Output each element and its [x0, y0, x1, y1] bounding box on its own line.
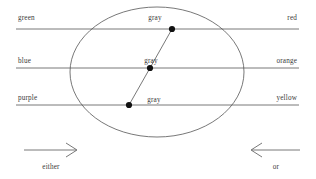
- row-label-left-2: blue: [18, 57, 78, 65]
- data-point-middle: [147, 65, 153, 71]
- either-arrow: [24, 143, 77, 157]
- grouping-ellipse: [70, 7, 244, 137]
- either-arrow-label: either: [25, 163, 77, 171]
- row-label-left-1: green: [18, 14, 78, 22]
- row-label-mid-2: gray: [126, 57, 176, 65]
- row-label-mid-1: gray: [130, 14, 180, 22]
- data-point-top: [169, 26, 175, 32]
- or-arrow-label: or: [252, 163, 300, 171]
- or-arrow: [251, 143, 300, 157]
- diagram-svg: [0, 0, 316, 179]
- row-label-right-2: orange: [237, 57, 297, 65]
- row-label-right-3: yellow: [237, 94, 297, 102]
- row-label-right-1: red: [237, 14, 297, 22]
- row-label-mid-3: gray: [129, 96, 179, 104]
- diagram-canvas: green gray red blue gray orange purple g…: [0, 0, 316, 179]
- row-label-left-3: purple: [18, 94, 78, 102]
